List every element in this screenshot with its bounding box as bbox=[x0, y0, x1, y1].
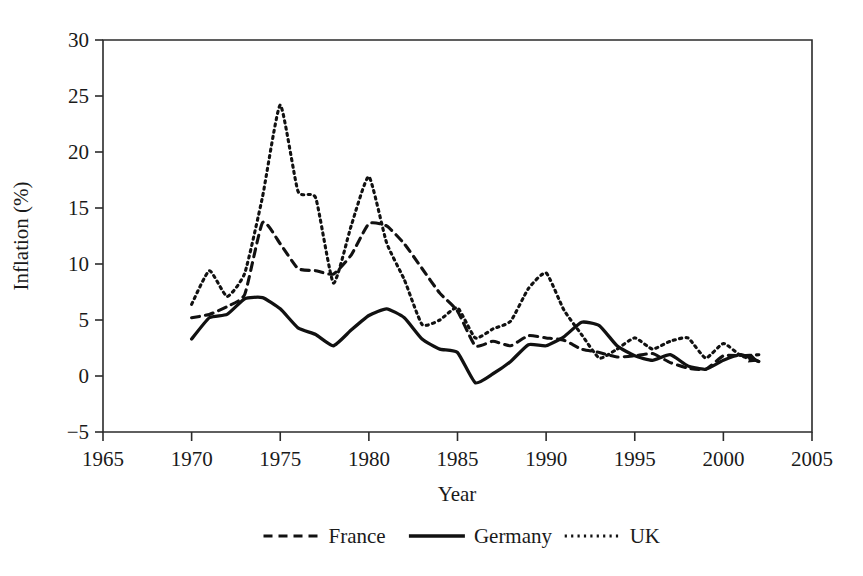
legend-label-germany: Germany bbox=[474, 524, 553, 548]
chart-legend: FranceGermanyUK bbox=[264, 524, 661, 548]
x-tick-label: 1995 bbox=[614, 447, 656, 471]
series-line-france bbox=[192, 222, 759, 370]
x-tick-label: 1970 bbox=[171, 447, 213, 471]
y-tick-label: 15 bbox=[68, 196, 89, 220]
x-tick-label: 1975 bbox=[259, 447, 301, 471]
y-tick-label: 20 bbox=[68, 140, 89, 164]
legend-label-uk: UK bbox=[630, 524, 660, 548]
x-axis: 196519701975198019851990199520002005 bbox=[82, 432, 833, 471]
x-tick-label: 1965 bbox=[82, 447, 124, 471]
data-series-group bbox=[192, 105, 759, 383]
y-tick-label: 5 bbox=[79, 308, 90, 332]
plot-frame bbox=[103, 40, 812, 432]
y-tick-label: 30 bbox=[68, 28, 89, 52]
y-axis-title: Inflation (%) bbox=[9, 181, 33, 290]
chart-canvas: −5051015202530 1965197019751980198519901… bbox=[0, 0, 863, 576]
x-tick-label: 1980 bbox=[348, 447, 390, 471]
y-tick-label: 25 bbox=[68, 84, 89, 108]
y-tick-label: −5 bbox=[67, 420, 89, 444]
axis-frame bbox=[103, 40, 812, 432]
x-tick-label: 1990 bbox=[525, 447, 567, 471]
y-tick-label: 10 bbox=[68, 252, 89, 276]
x-axis-title: Year bbox=[438, 482, 477, 506]
x-tick-label: 2005 bbox=[791, 447, 833, 471]
y-axis: −5051015202530 bbox=[67, 28, 103, 444]
x-tick-label: 2000 bbox=[702, 447, 744, 471]
x-tick-label: 1985 bbox=[437, 447, 479, 471]
inflation-line-chart: −5051015202530 1965197019751980198519901… bbox=[0, 0, 863, 576]
y-tick-label: 0 bbox=[79, 364, 90, 388]
series-line-uk bbox=[192, 105, 759, 361]
legend-label-france: France bbox=[329, 524, 386, 548]
